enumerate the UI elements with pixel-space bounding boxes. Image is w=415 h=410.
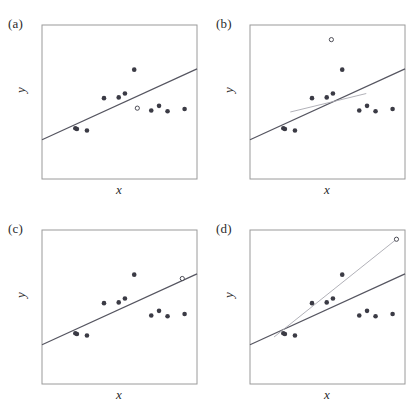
data-point bbox=[390, 312, 395, 317]
data-point bbox=[365, 104, 370, 109]
data-point bbox=[116, 300, 121, 305]
data-point bbox=[132, 272, 137, 277]
data-point-influential-point bbox=[394, 237, 398, 241]
data-point bbox=[157, 104, 162, 109]
data-point bbox=[75, 127, 80, 132]
panel-c-plot bbox=[0, 205, 207, 410]
data-point bbox=[357, 313, 362, 318]
data-point bbox=[85, 128, 90, 133]
data-point bbox=[85, 333, 90, 338]
data-point bbox=[182, 107, 187, 112]
data-point bbox=[123, 91, 128, 96]
data-point bbox=[283, 332, 288, 337]
data-point bbox=[132, 67, 137, 72]
data-point bbox=[340, 67, 345, 72]
data-point bbox=[102, 301, 107, 306]
panel-b-frame bbox=[250, 25, 405, 179]
panel-a-frame bbox=[42, 25, 197, 179]
data-point bbox=[390, 107, 395, 112]
panel-c: (c) y x bbox=[0, 205, 207, 410]
data-point-leverage-point bbox=[180, 276, 184, 280]
panel-d-plot bbox=[208, 205, 415, 410]
data-point bbox=[149, 108, 154, 113]
data-point bbox=[310, 96, 315, 101]
data-point bbox=[357, 108, 362, 113]
data-point bbox=[157, 309, 162, 314]
data-point bbox=[75, 332, 80, 337]
data-point bbox=[283, 127, 288, 132]
regression-outlier-leverage-figure: (a) y x (b) y x (c) y x (d) y x bbox=[0, 0, 415, 410]
data-point bbox=[293, 333, 298, 338]
data-point bbox=[331, 91, 336, 96]
panel-c-frame bbox=[42, 230, 197, 384]
data-point bbox=[182, 312, 187, 317]
data-point bbox=[149, 313, 154, 318]
panel-d: (d) y x bbox=[208, 205, 415, 410]
data-point bbox=[373, 314, 378, 319]
data-point bbox=[165, 314, 170, 319]
data-point bbox=[340, 272, 345, 277]
panel-d-frame bbox=[250, 230, 405, 384]
data-point bbox=[165, 109, 170, 114]
data-point bbox=[123, 296, 128, 301]
panel-a-plot bbox=[0, 0, 207, 205]
panel-a: (a) y x bbox=[0, 0, 207, 205]
data-point bbox=[331, 296, 336, 301]
data-point bbox=[324, 95, 329, 100]
data-point bbox=[116, 95, 121, 100]
data-point bbox=[365, 309, 370, 314]
panel-b: (b) y x bbox=[208, 0, 415, 205]
data-point-highlighted-point bbox=[135, 106, 139, 110]
data-point bbox=[373, 109, 378, 114]
data-point-outlier-point bbox=[329, 38, 333, 42]
panel-b-plot bbox=[208, 0, 415, 205]
data-point bbox=[102, 96, 107, 101]
data-point bbox=[324, 300, 329, 305]
data-point bbox=[293, 128, 298, 133]
data-point bbox=[310, 301, 315, 306]
